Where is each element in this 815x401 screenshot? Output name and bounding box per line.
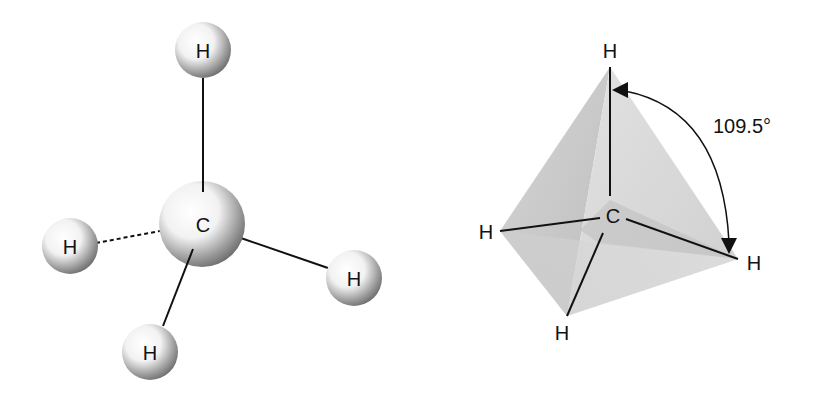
svg-text:C: C (196, 214, 210, 236)
label-carbon: C (606, 205, 620, 227)
svg-text:H: H (63, 236, 77, 258)
methane-diagram: H H H C H (0, 0, 815, 401)
label-h-left: H (479, 221, 493, 243)
svg-text:H: H (347, 268, 361, 290)
hydrogen-atom-left: H (42, 218, 98, 274)
hydrogen-atom-top: H (175, 22, 231, 78)
tetrahedron-model: H C H H H 109.5° (479, 40, 771, 344)
ball-and-stick-model: H H H C H (42, 22, 382, 380)
hydrogen-atom-right: H (326, 250, 382, 306)
carbon-atom: C (159, 180, 245, 267)
hydrogen-atom-bottom: H (122, 324, 178, 380)
label-h-bottom: H (555, 322, 569, 344)
bond-back-dashed (96, 231, 160, 243)
bond-front (163, 249, 193, 326)
label-h-right: H (747, 252, 761, 274)
svg-text:H: H (143, 342, 157, 364)
bond-angle-label: 109.5° (713, 115, 771, 137)
label-h-apex: H (603, 40, 617, 62)
svg-text:H: H (196, 40, 210, 62)
bond-right (238, 237, 328, 268)
